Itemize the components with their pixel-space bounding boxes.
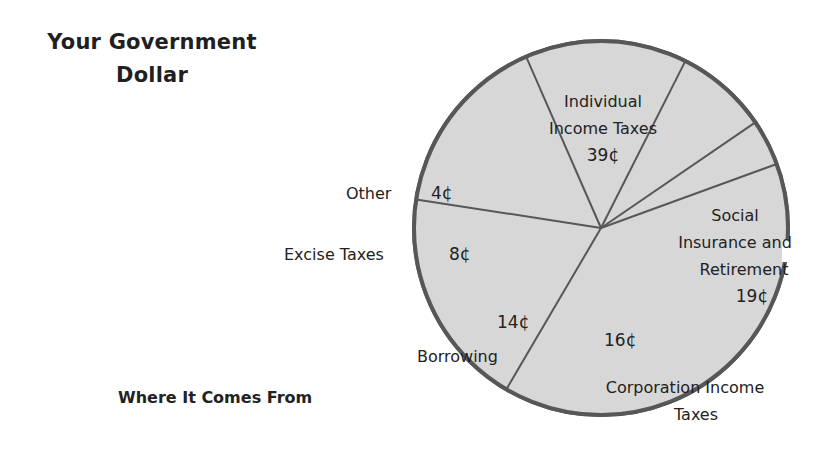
slice-value-excise-taxes: 8¢ [449,241,471,268]
chart: Your Government Dollar Where It Comes Fr… [0,0,823,458]
slice-value: 19¢ [672,283,798,310]
label-line: Income Taxes [528,115,678,142]
label-line: Individual [528,88,678,115]
label-line: Social [672,202,798,229]
slice-label-social-insurance: Social Insurance and Retirement 19¢ [672,202,798,310]
slice-value-corporation: 16¢ [604,327,636,354]
slice-value-other: 4¢ [431,180,453,207]
slice-label-individual-income-taxes: Individual Income Taxes 39¢ [528,88,678,169]
slice-label-other: Other [346,180,391,207]
slice-label-corporation-income-taxes: Corporation Income Taxes [582,374,788,428]
slice-label-borrowing: Borrowing [417,343,498,370]
slice-value-borrowing: 14¢ [497,309,529,336]
label-line: Retirement [672,256,798,283]
label-line: Taxes [582,401,788,428]
label-line: Corporation Income [582,374,788,401]
slice-label-excise-taxes: Excise Taxes [284,241,384,268]
label-line: Insurance and [672,229,798,256]
slice-value: 39¢ [528,142,678,169]
